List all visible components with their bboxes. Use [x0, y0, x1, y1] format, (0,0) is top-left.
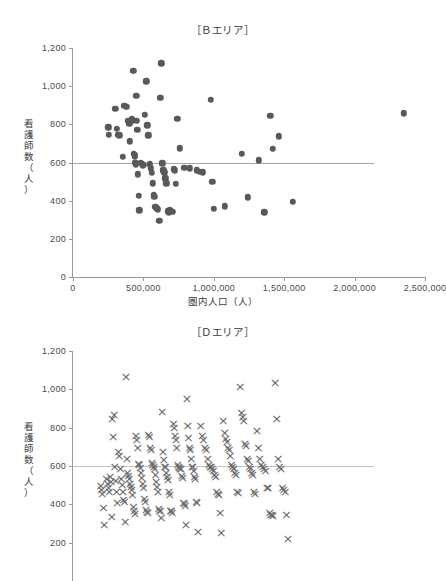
- plot-b-data-point: [123, 103, 129, 109]
- chart-d-ylabel-char-6: ）: [22, 487, 36, 498]
- plot-b-data-point: [222, 203, 228, 209]
- plot-d-data-point: [263, 483, 272, 492]
- plot-d-ytick-label-400: 400: [50, 499, 66, 509]
- chart-b-ylabel-char-0: 看: [22, 118, 36, 129]
- plot-b-data-point: [133, 93, 139, 99]
- plot-b-data-point: [148, 170, 154, 176]
- plot-b-data-point: [132, 153, 138, 159]
- plot-b-ytick-label-1200: 1,200: [42, 43, 66, 53]
- plot-b-xtick-label-1500000: 1,500,000: [263, 283, 306, 293]
- plot-b-data-point: [239, 151, 245, 157]
- chart-b-area: ［Ｂエリア］ 看護師数（人） 圏内人口（人） 02004006008001,00…: [0, 0, 445, 312]
- plot-b-data-point: [145, 132, 151, 138]
- plot-b-data-point: [275, 133, 281, 139]
- plot-d-ytick-400: [69, 504, 73, 505]
- plot-b-ytick-label-800: 800: [50, 119, 66, 129]
- chart-d-plot-area: 2004006008001,0001,200: [72, 351, 425, 581]
- chart-d-y-axis-label: 看護師数（人）: [22, 421, 36, 498]
- plot-d-data-point: [283, 534, 292, 543]
- plot-b-data-point: [159, 160, 165, 166]
- plot-b-xtick-label-500000: 500,000: [126, 283, 161, 293]
- plot-b-data-point: [401, 110, 407, 116]
- plot-b-xtick-2000000: [355, 277, 356, 281]
- plot-d-data-point: [230, 469, 239, 478]
- chart-d-ylabel-char-4: （: [22, 465, 36, 476]
- plot-d-data-point: [121, 454, 130, 463]
- plot-b-data-point: [244, 194, 250, 200]
- plot-d-data-point: [215, 507, 224, 516]
- plot-d-ytick-200: [69, 543, 73, 544]
- plot-b-ytick-label-400: 400: [50, 196, 66, 206]
- plot-b-ytick-800: [69, 124, 73, 125]
- plot-b-ytick-1200: [69, 48, 73, 49]
- plot-d-data-point: [120, 517, 129, 526]
- plot-b-data-point: [116, 132, 122, 138]
- plot-b-data-point: [173, 181, 179, 187]
- plot-d-data-point: [210, 471, 219, 480]
- plot-d-ytick-label-1200: 1,200: [42, 346, 66, 356]
- plot-d-data-point: [252, 425, 261, 434]
- plot-b-data-point: [136, 207, 142, 213]
- plot-b-ytick-label-200: 200: [50, 234, 66, 244]
- plot-b-data-point: [142, 112, 148, 118]
- plot-d-data-point: [238, 416, 247, 425]
- plot-b-data-point: [163, 180, 169, 186]
- plot-b-data-point: [158, 60, 164, 66]
- plot-d-data-point: [171, 442, 180, 451]
- plot-d-data-point: [280, 486, 289, 495]
- plot-b-data-point: [105, 124, 111, 130]
- plot-b-data-point: [155, 206, 161, 212]
- plot-b-data-point: [187, 165, 193, 171]
- plot-b-data-point: [149, 180, 155, 186]
- plot-d-data-point: [142, 508, 151, 517]
- plot-d-data-point: [163, 475, 172, 484]
- plot-b-xtick-500000: [143, 277, 144, 281]
- chart-b-ylabel-char-5: 人: [22, 173, 36, 184]
- plot-d-ytick-800: [69, 428, 73, 429]
- plot-d-data-point: [216, 528, 225, 537]
- plot-d-data-point: [270, 378, 279, 387]
- plot-d-data-point: [233, 488, 242, 497]
- plot-d-data-point: [281, 510, 290, 519]
- plot-d-data-point: [152, 486, 161, 495]
- plot-d-data-point: [250, 488, 259, 497]
- plot-b-data-point: [133, 117, 139, 123]
- chart-b-ylabel-char-4: （: [22, 162, 36, 173]
- plot-d-data-point: [260, 465, 269, 474]
- plot-b-data-point: [130, 68, 136, 74]
- plot-b-data-point: [134, 127, 140, 133]
- plot-b-data-point: [211, 205, 217, 211]
- chart-d-ylabel-char-2: 師: [22, 443, 36, 454]
- chart-b-y-axis-label: 看護師数（人）: [22, 118, 36, 195]
- plot-b-data-point: [120, 154, 126, 160]
- plot-d-data-point: [109, 410, 118, 419]
- chart-b-title: ［Ｂエリア］: [0, 22, 445, 37]
- chart-b-ylabel-char-6: ）: [22, 184, 36, 195]
- plot-b-data-point: [135, 171, 141, 177]
- plot-d-data-point: [271, 413, 280, 422]
- plot-b-ytick-label-600: 600: [50, 158, 66, 168]
- chart-b-ylabel-char-2: 師: [22, 140, 36, 151]
- plot-d-ytick-1000: [69, 389, 73, 390]
- chart-b-plot-area: 02004006008001,0001,2000500,0001,000,000…: [72, 48, 425, 278]
- plot-d-ytick-label-600: 600: [50, 461, 66, 471]
- plot-d-data-point: [180, 500, 189, 509]
- plot-d-data-point: [108, 431, 117, 440]
- plot-d-data-point: [132, 442, 141, 451]
- chart-b-ylabel-char-3: 数: [22, 151, 36, 162]
- plot-b-ytick-200: [69, 239, 73, 240]
- plot-d-data-point: [235, 381, 244, 390]
- plot-b-data-point: [144, 122, 150, 128]
- plot-d-data-point: [121, 371, 130, 380]
- chart-d-title: ［Ｄエリア］: [0, 324, 445, 339]
- plot-d-data-point: [177, 473, 186, 482]
- chart-d-area: ［Ｄエリア］ 看護師数（人） 2004006008001,0001,200: [0, 320, 445, 562]
- plot-b-data-point: [106, 132, 112, 138]
- plot-b-data-point: [199, 169, 205, 175]
- plot-b-xtick-1000000: [214, 277, 215, 281]
- plot-b-xtick-2500000: [425, 277, 426, 281]
- plot-b-data-point: [267, 113, 273, 119]
- plot-b-ytick-1000: [69, 86, 73, 87]
- plot-b-data-point: [169, 209, 175, 215]
- plot-b-data-point: [177, 145, 183, 151]
